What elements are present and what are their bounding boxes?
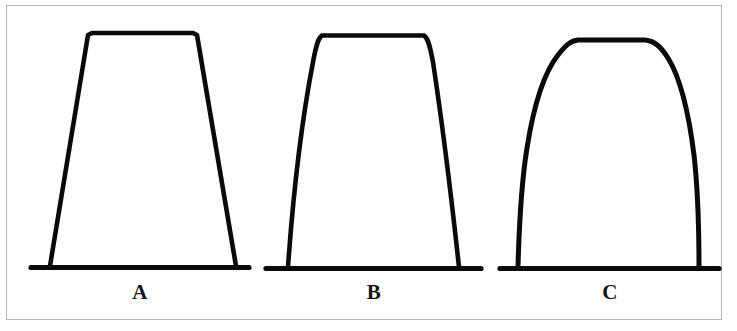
panel-label-c: C [580, 280, 640, 305]
figure-root: A B C [0, 0, 737, 331]
panel-b-outline [288, 36, 459, 268]
panel-label-a: A [110, 280, 170, 305]
panel-c-outline [518, 40, 699, 267]
panel-b-shape [266, 36, 481, 269]
panel-a-outline [50, 33, 236, 266]
panel-a-shape [31, 33, 249, 268]
panel-c-shape [500, 40, 719, 269]
panel-label-b: B [344, 280, 404, 305]
